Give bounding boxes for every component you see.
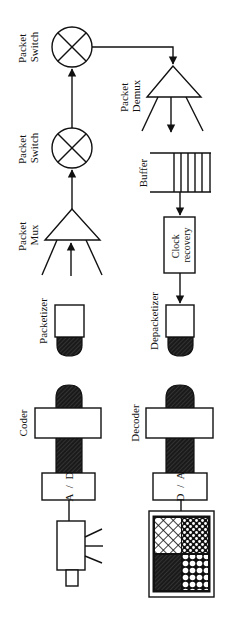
triangle-mux-icon — [45, 209, 100, 240]
clock-recovery-label-2: recovery — [181, 228, 192, 263]
ad-label-d: D — [63, 472, 75, 480]
ad-converter: A / D — [42, 472, 95, 502]
coder-label: Coder — [17, 409, 29, 436]
packet-mux: Packet Mux — [16, 170, 102, 276]
packet-switch-bottom: Packet Switch — [16, 128, 92, 168]
svg-text:D / A: D / A — [174, 472, 186, 502]
svg-text:Packet Mux: Packet Mux — [16, 219, 40, 251]
decoder: Decoder — [129, 385, 213, 473]
packet-switch-bottom-label-2: Switch — [28, 132, 40, 163]
triangle-demux-icon — [147, 66, 201, 97]
queue-buffer-icon — [150, 153, 211, 192]
link-switch-to-demux — [92, 47, 173, 64]
packet-demux-label-1: Packet — [118, 83, 130, 112]
svg-text:A / D: A / D — [63, 472, 75, 502]
packet-switch-top-label-1: Packet — [16, 34, 28, 63]
da-label-d: D — [174, 493, 186, 501]
da-label-a: A — [174, 472, 186, 480]
circle-x-icon — [52, 128, 92, 168]
depacketizer-label: Depacketizer — [148, 292, 160, 350]
packet-switch-top-label-2: Switch — [28, 31, 40, 62]
diagram-canvas: Packet Switch Packet Switch Packet Mux — [0, 0, 229, 635]
packetizer: Packetizer — [37, 298, 84, 356]
camera-icon — [57, 500, 103, 586]
decoder-label: Decoder — [129, 404, 141, 442]
packetizer-label: Packetizer — [37, 298, 49, 344]
packet-demux: Packet Demux — [118, 66, 203, 132]
coder: Coder — [17, 385, 101, 473]
packet-mux-label-1: Packet — [16, 222, 28, 251]
da-converter: D / A — [153, 472, 207, 502]
packet-mux-label-2: Mux — [28, 224, 40, 245]
svg-text:Clock recovery: Clock recovery — [170, 228, 192, 263]
buffer: Buffer — [137, 153, 211, 192]
svg-text:Packet Switch: Packet Switch — [16, 132, 40, 164]
monitor-icon — [149, 500, 214, 597]
packet-demux-label-2: Demux — [130, 79, 142, 112]
clock-recovery: Clock recovery — [164, 217, 195, 273]
packet-switch-bottom-label-1: Packet — [16, 135, 28, 164]
clock-recovery-label-1: Clock — [170, 234, 181, 258]
svg-text:Packet Switch: Packet Switch — [16, 31, 40, 63]
depacketizer: Depacketizer — [148, 292, 194, 356]
svg-text:Packet Demux: Packet Demux — [118, 79, 142, 112]
diagram-svg: Packet Switch Packet Switch Packet Mux — [0, 0, 229, 635]
buffer-label: Buffer — [137, 158, 149, 187]
circle-x-icon — [52, 27, 92, 67]
ad-label-slash: / — [63, 484, 75, 488]
packet-switch-top: Packet Switch — [16, 27, 92, 67]
da-label-slash: / — [174, 484, 186, 488]
